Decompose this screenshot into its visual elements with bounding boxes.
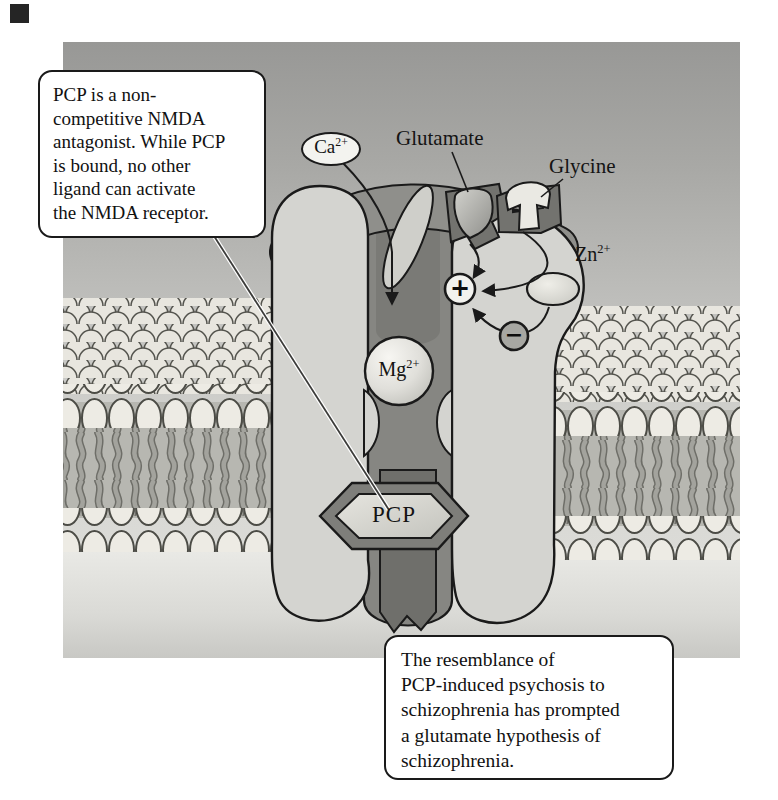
- minus-icon: −: [501, 322, 527, 350]
- mg-label-sup: 2+: [406, 357, 419, 371]
- mg-label: Mg2+: [365, 358, 433, 381]
- schizophrenia-callout-box: The resemblance of PCP-induced psychosis…: [384, 635, 674, 780]
- glycine-label: Glycine: [549, 154, 615, 179]
- membrane-left: [63, 298, 303, 552]
- ca-label-sup: 2+: [335, 136, 348, 149]
- zn-label-sup: 2+: [597, 242, 610, 256]
- pcp-callout-box: PCP is a non- competitive NMDA antagonis…: [38, 70, 266, 238]
- mg-label-base: Mg: [379, 358, 407, 380]
- zn-label-base: Zn: [575, 243, 597, 265]
- pcp-label: PCP: [356, 502, 432, 528]
- zn-ion: [527, 273, 579, 305]
- nmda-receptor: [272, 180, 584, 632]
- glutamate-label: Glutamate: [396, 126, 483, 151]
- zn-label: Zn2+: [575, 243, 610, 266]
- ca-label-base: Ca: [314, 136, 335, 157]
- ca-label: Ca2+: [303, 136, 359, 158]
- plus-icon: +: [447, 274, 473, 304]
- figure-page: Ca2+ Glutamate Glycine Zn2+ Mg2+ PCP + −…: [0, 0, 778, 800]
